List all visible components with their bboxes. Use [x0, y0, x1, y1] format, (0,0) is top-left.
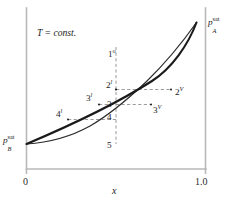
marker-3l — [98, 104, 100, 106]
label-pA-sat: psat A — [207, 15, 220, 34]
marker-3v — [150, 104, 152, 106]
svg-text:B: B — [8, 145, 12, 152]
temperature-annotation: T = const. — [37, 27, 76, 38]
p2l-sup: l — [111, 78, 113, 85]
point-label-5: 5 — [107, 140, 112, 150]
p3l-sup: l — [91, 91, 93, 98]
p4-base: 4 — [107, 112, 112, 122]
p1-sup: o — [113, 47, 116, 54]
point-label-1: 1o — [108, 47, 116, 59]
point-label-3v: 3V — [153, 103, 163, 115]
point-label-3: 3 — [107, 99, 112, 109]
point-label-2v: 2V — [175, 85, 185, 97]
x-axis-title: x — [111, 185, 117, 196]
point-label-4l: 4l — [56, 107, 63, 119]
point-label-3l: 3l — [86, 91, 93, 103]
x-tick-label-right: 1.0 — [195, 176, 208, 187]
pA-sub: A — [212, 27, 217, 34]
p2v-sup: V — [180, 85, 185, 92]
point-label-2l: 2l — [106, 78, 113, 90]
marker-4l — [67, 119, 69, 121]
pB-sub: B — [8, 145, 12, 152]
svg-text:psat: psat — [2, 133, 15, 145]
point-label-4: 4 — [107, 112, 112, 122]
svg-text:psat: psat — [207, 15, 220, 27]
pB-sup: sat — [8, 133, 15, 140]
p4l-sup: l — [61, 107, 63, 114]
annot-T: T = const. — [37, 27, 76, 38]
svg-text:A: A — [212, 27, 217, 34]
x-tick-label-left: 0 — [23, 176, 28, 187]
p3v-sup: V — [158, 103, 163, 110]
phase-diagram-figure: T = const. psat A psat B 1o 2l 3l 4l — [0, 0, 230, 199]
p3-base: 3 — [107, 99, 112, 109]
pA-sup: sat — [213, 15, 220, 22]
marker-2v — [170, 89, 172, 91]
marker-2l — [115, 88, 117, 90]
label-pB-sat: psat B — [2, 133, 15, 152]
plot-canvas: T = const. psat A psat B 1o 2l 3l 4l — [0, 0, 230, 199]
p5-base: 5 — [107, 140, 112, 150]
